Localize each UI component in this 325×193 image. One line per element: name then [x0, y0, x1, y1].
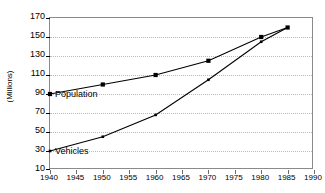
y-tick-label: 70 — [23, 107, 45, 116]
y-tick-label: 50 — [23, 126, 45, 135]
x-tick-label: 1990 — [300, 173, 325, 182]
y-tick-label: 170 — [23, 12, 45, 21]
x-tick-label: 1985 — [274, 173, 300, 182]
data-point-marker — [286, 26, 289, 29]
x-tick-label: 1945 — [62, 173, 88, 182]
series-label-vehicles: Vehicles — [55, 146, 89, 156]
data-point-marker — [154, 114, 157, 117]
x-tick-label: 1955 — [115, 173, 141, 182]
x-tick-label: 1980 — [247, 173, 273, 182]
plot-area: Population Vehicles — [49, 17, 313, 169]
x-tick-label: 1965 — [168, 173, 194, 182]
line-chart: (Millions) 170 150 130 110 90 70 50 30 1… — [0, 0, 325, 193]
data-point-marker — [260, 40, 263, 43]
data-point-marker — [206, 59, 210, 63]
x-tick-label: 1970 — [194, 173, 220, 182]
y-tick-label: 30 — [23, 145, 45, 154]
data-point-marker — [49, 150, 52, 153]
data-point-marker — [154, 73, 158, 77]
data-point-marker — [101, 82, 105, 86]
y-tick-label: 110 — [23, 69, 45, 78]
y-axis-tick-labels: 170 150 130 110 90 70 50 30 10 — [23, 0, 45, 193]
y-axis-title: (Millions) — [5, 52, 14, 122]
x-tick-label: 1950 — [89, 173, 115, 182]
y-tick-label: 10 — [23, 164, 45, 173]
x-tick-label: 1940 — [36, 173, 62, 182]
series-line-population — [50, 28, 288, 95]
data-point-marker — [259, 35, 263, 39]
x-tick-label: 1975 — [221, 173, 247, 182]
series-label-population: Population — [55, 89, 98, 99]
y-tick-label: 150 — [23, 31, 45, 40]
y-tick-label: 90 — [23, 88, 45, 97]
data-point-marker — [48, 92, 52, 96]
data-point-marker — [207, 78, 210, 81]
data-point-marker — [102, 135, 105, 138]
x-tick-label: 1960 — [142, 173, 168, 182]
y-tick-label: 130 — [23, 50, 45, 59]
